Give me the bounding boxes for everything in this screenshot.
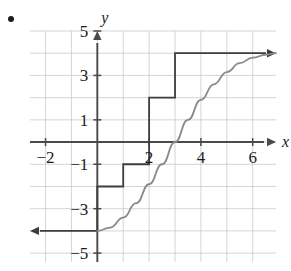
gridlines <box>30 31 276 262</box>
bullet-marker <box>8 16 14 22</box>
tick-labels: 531−1−3−5−2246xy <box>36 9 289 263</box>
x-tick-label: 4 <box>197 148 206 167</box>
x-axis-arrow <box>267 138 276 146</box>
y-tick-label: 1 <box>80 111 89 130</box>
x-axis-label: x <box>281 133 289 150</box>
y-tick-label: 5 <box>80 22 89 41</box>
y-tick-label: −5 <box>70 244 88 263</box>
y-tick-label: −3 <box>70 200 88 219</box>
y-axis-label: y <box>99 9 109 27</box>
x-tick-label: 2 <box>145 148 154 167</box>
step-function-left-arrow <box>30 227 39 235</box>
x-tick-label: 6 <box>248 148 257 167</box>
y-tick-label: −1 <box>70 155 88 174</box>
y-tick-label: 3 <box>80 66 89 85</box>
figure-container: 531−1−3−5−2246xy <box>0 0 291 271</box>
coordinate-plane-graph: 531−1−3−5−2246xy <box>0 0 291 271</box>
axes <box>30 31 276 262</box>
y-axis-arrow <box>93 31 101 40</box>
x-tick-label: −2 <box>36 148 54 167</box>
